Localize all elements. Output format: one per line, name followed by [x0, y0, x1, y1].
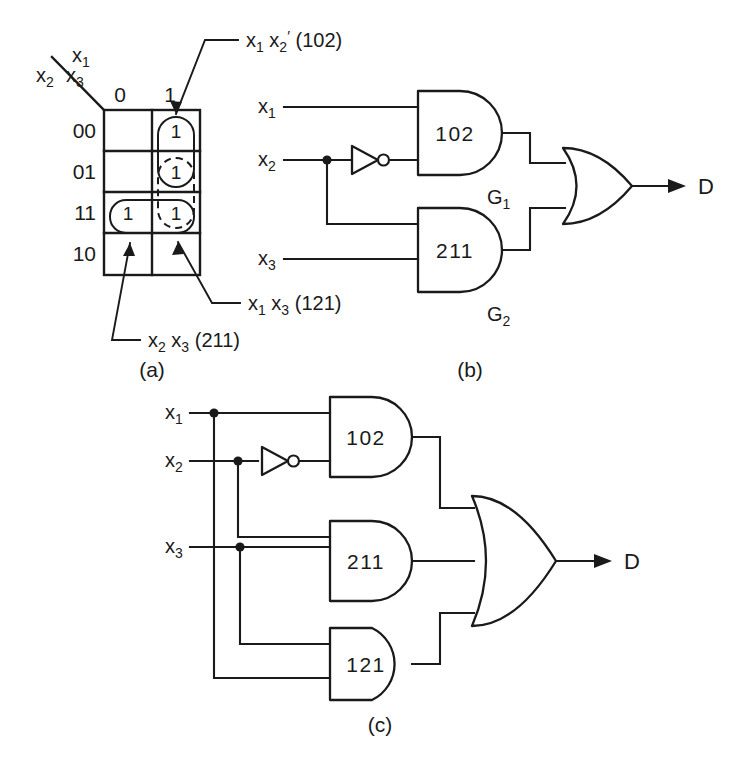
circuit-b-input-x1: x1	[258, 95, 276, 121]
circuit-c-not-bubble	[288, 456, 299, 467]
circuit-c-wire-x3-branch	[240, 547, 330, 644]
circuit-b-not-gate	[352, 146, 378, 174]
circuit-b-and-gate-211-label: 211	[436, 239, 474, 262]
circuit-c-and-gate-211-label: 211	[347, 550, 385, 573]
panel-c-circuit: x1 x2 x3 102 211 121	[165, 397, 640, 736]
circuit-b-output-arrowhead	[668, 179, 686, 193]
kmap-row-header-00: 00	[73, 119, 96, 142]
circuit-b-and-gate-211-tag: G2	[487, 303, 511, 329]
kmap-annotation-121: x1 x3 (121)	[248, 292, 341, 318]
circuit-b-wire-and102-to-or	[502, 133, 565, 163]
kmap-leader-102	[176, 40, 238, 114]
circuit-b-wire-and211-to-or	[502, 208, 565, 250]
circuit-b-wire-x2-branch	[327, 160, 418, 224]
kmap-cell-11-0: 1	[123, 203, 134, 224]
circuit-c-input-x3: x3	[165, 535, 183, 561]
circuit-c-output-label: D	[624, 549, 640, 574]
kmap-annotation-211: x2 x3 (211)	[148, 329, 240, 355]
circuit-b-and-gate-102-label: 102	[435, 122, 475, 145]
figure-canvas: x2 x3 x1 0 1 00 01 11 10 1 1 1 1 x1 x2′ …	[0, 0, 739, 762]
kmap-leader-211	[112, 243, 140, 340]
circuit-b-and-gate-102-tag: G1	[487, 186, 511, 212]
circuit-b-input-x2: x2	[258, 148, 276, 174]
circuit-b-not-bubble	[378, 155, 389, 166]
kmap-row-header-01: 01	[73, 160, 96, 183]
kmap-row-header-10: 10	[73, 242, 96, 265]
panel-b-circuit: x1 x2 x3 102 G1 211 G2 D (b)	[258, 91, 714, 381]
circuit-c-wire-and121-to-or	[412, 613, 474, 664]
circuit-c-output-arrowhead	[594, 554, 612, 568]
circuit-c-wire-and102-to-or	[412, 437, 474, 508]
kmap-annotation-102: x1 x2′ (102)	[246, 27, 342, 55]
kmap-row-header-11: 11	[74, 201, 96, 224]
circuit-c-and-gate-121-label: 121	[346, 653, 386, 676]
circuit-b-output-label: D	[698, 174, 714, 199]
kmap-cell-00-1: 1	[171, 121, 182, 142]
kmap-row-var-1: x2	[36, 64, 54, 90]
caption-panel-b: (b)	[457, 358, 483, 381]
kmap-leader-121	[178, 242, 240, 303]
caption-panel-c: (c)	[368, 713, 393, 736]
circuit-b-input-x3: x3	[258, 247, 276, 273]
panel-a-kmap: x2 x3 x1 0 1 00 01 11 10 1 1 1 1 x1 x2′ …	[36, 27, 342, 381]
kmap-leader-211-arrowhead	[123, 243, 135, 256]
kmap-col-header-0: 0	[114, 83, 126, 106]
figure-root: x2 x3 x1 0 1 00 01 11 10 1 1 1 1 x1 x2′ …	[0, 0, 739, 762]
caption-panel-a: (a)	[139, 358, 165, 381]
circuit-c-and-gate-102-label: 102	[346, 426, 386, 449]
circuit-c-or-gate	[472, 496, 556, 626]
kmap-cell-01-1: 1	[171, 162, 182, 183]
circuit-c-wire-x2-branch	[238, 461, 330, 537]
circuit-c-not-gate	[262, 447, 288, 475]
kmap-leader-102-arrowhead	[170, 101, 182, 114]
circuit-c-input-x1: x1	[165, 401, 183, 427]
circuit-b-or-gate	[563, 148, 632, 224]
kmap-cell-11-1: 1	[171, 203, 182, 224]
circuit-c-input-x2: x2	[165, 449, 183, 475]
